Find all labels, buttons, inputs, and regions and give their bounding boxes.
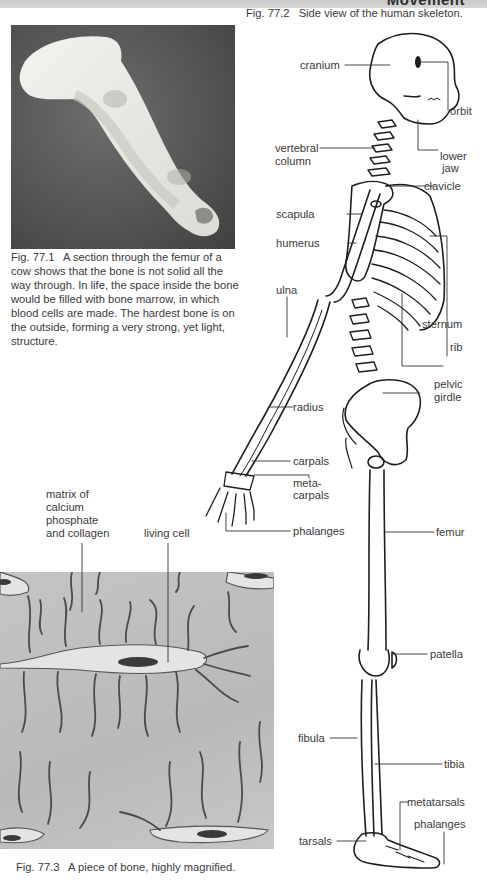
label-tibia: tibia xyxy=(444,758,465,771)
label-sternum: sternum xyxy=(422,318,462,331)
label-pelvic-girdle-2: girdle xyxy=(434,391,461,404)
label-patella: patella xyxy=(430,648,463,661)
label-radius: radius xyxy=(293,401,323,414)
label-vertebral-column-2: column xyxy=(275,155,311,168)
label-ulna: ulna xyxy=(276,284,297,297)
label-carpals: carpals xyxy=(293,455,329,468)
fig-77-3-number: Fig. 77.3 xyxy=(16,861,60,873)
label-vertebral-column-1: vertebral xyxy=(275,142,319,155)
label-matrix-1: matrix of xyxy=(46,488,89,501)
label-living-cell: living cell xyxy=(144,527,189,540)
label-humerus: humerus xyxy=(276,237,320,250)
label-lower-jaw-2: jaw xyxy=(442,162,459,175)
label-metacarpals-2: carpals xyxy=(293,489,329,502)
label-metatarsals: metatarsals xyxy=(407,796,465,809)
bone-cells-drawing xyxy=(0,572,274,849)
label-matrix-3: phosphate xyxy=(46,514,98,527)
label-phalanges-foot: phalanges xyxy=(414,818,466,831)
bone-matrix-illustration xyxy=(0,572,274,849)
label-clavicle: clavicle xyxy=(424,180,461,193)
label-fibula: fibula xyxy=(298,732,325,745)
label-pelvic-girdle-1: pelvic xyxy=(434,378,463,391)
fig-77-3-caption: Fig. 77.3 A piece of bone, highly magnif… xyxy=(16,860,316,874)
label-matrix-4: and collagen xyxy=(46,527,109,540)
fig-77-3-text: A piece of bone, highly magnified. xyxy=(68,861,235,873)
label-orbit: orbit xyxy=(450,105,472,118)
label-phalanges-hand: phalanges xyxy=(293,525,345,538)
label-tarsals: tarsals xyxy=(299,835,332,848)
label-scapula: scapula xyxy=(276,208,315,221)
label-matrix-2: calcium xyxy=(46,501,84,514)
label-rib: rib xyxy=(450,341,462,354)
label-femur: femur xyxy=(436,526,465,539)
label-cranium: cranium xyxy=(300,59,340,72)
